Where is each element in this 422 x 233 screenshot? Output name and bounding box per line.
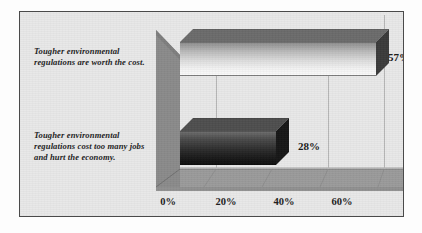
xtick-label-40: 40% bbox=[274, 196, 295, 207]
bar-0-front-face[interactable] bbox=[180, 42, 376, 76]
category-label-cost-too-many-jobs: Tougher environmental regulations cost t… bbox=[34, 130, 162, 164]
xtick-label-0: 0% bbox=[160, 196, 176, 207]
category-label-worth-the-cost: Tougher environmental regulations are wo… bbox=[34, 46, 162, 68]
chart-root: 57% 28% Tougher environmental regulation… bbox=[0, 0, 422, 233]
xtick-label-60: 60% bbox=[332, 196, 353, 207]
bar-1-value-label: 28% bbox=[298, 140, 320, 152]
bar-1-side-face bbox=[276, 118, 292, 180]
bar-group-0[interactable] bbox=[180, 42, 390, 90]
chart-frame: 57% 28% Tougher environmental regulation… bbox=[19, 11, 404, 217]
floor-front-lip bbox=[156, 187, 403, 191]
bar-group-1[interactable] bbox=[180, 131, 300, 179]
bar-0-value-label: 57% bbox=[388, 51, 404, 63]
xtick-label-20: 20% bbox=[216, 196, 237, 207]
bar-1-front-face[interactable] bbox=[180, 131, 276, 165]
